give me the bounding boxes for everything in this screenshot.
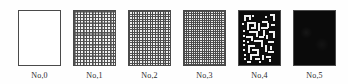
- panel-image-3: [183, 10, 226, 66]
- figure-panel-3: No,3: [177, 0, 232, 84]
- figure-panel-4: No,4: [232, 0, 287, 84]
- figure-panel-2: No,2: [122, 0, 177, 84]
- panel-image-4: [238, 10, 281, 66]
- panel-caption-0: No,0: [31, 71, 48, 81]
- panel-caption-4: No,4: [251, 71, 268, 81]
- panel-texture-fine-grid: [184, 11, 225, 65]
- figure-panel-strip: No,0 No,1 No,2 No,3: [0, 0, 348, 84]
- panel-caption-2: No,2: [141, 71, 158, 81]
- maze-pattern-svg: [239, 11, 280, 65]
- panel-caption-5: No,5: [306, 71, 323, 81]
- panel-image-2: [128, 10, 171, 66]
- panel-caption-3: No,3: [196, 71, 213, 81]
- panel-texture-medium-grid: [129, 11, 170, 65]
- figure-panel-1: No,1: [67, 0, 122, 84]
- panel-caption-1: No,1: [86, 71, 103, 81]
- panel-texture-blank: [19, 11, 60, 65]
- panel-image-1: [73, 10, 116, 66]
- figure-panel-0: No,0: [12, 0, 67, 84]
- panel-image-5: [293, 10, 336, 66]
- panel-image-0: [18, 10, 61, 66]
- figure-panel-5: No,5: [287, 0, 342, 84]
- panel-texture-maze: [239, 11, 280, 65]
- panel-texture-solid-black: [294, 11, 335, 65]
- panel-texture-coarse-grid: [74, 11, 115, 65]
